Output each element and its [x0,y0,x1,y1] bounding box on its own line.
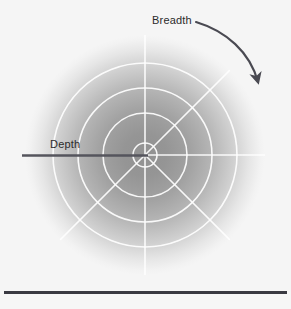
radial-diagram-svg [0,0,291,292]
caption-divider-rule [4,291,287,294]
depth-label: Depth [50,138,80,150]
breadth-label: Breadth [152,14,192,26]
figure-caption [6,297,286,309]
figure-container: Breadth Depth [0,0,291,309]
diagram-canvas: Breadth Depth [0,0,291,292]
